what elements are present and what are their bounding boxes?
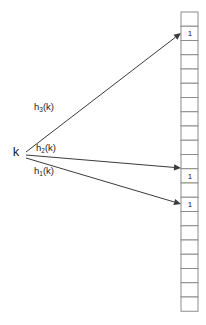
diagram-canvas: 111 k h3(k)h2(k)h1(k) (0, 0, 206, 325)
bit-array-cell[interactable] (181, 69, 198, 83)
arrow-line-h3 (26, 37, 175, 152)
bit-array-cell-value: 1 (188, 29, 193, 38)
bit-array-cell[interactable] (181, 183, 198, 197)
bit-array-cell[interactable] (181, 269, 198, 283)
bit-array-cell[interactable] (181, 297, 198, 311)
bit-array-cell-value: 1 (188, 200, 193, 209)
bit-array-cell[interactable] (181, 12, 198, 26)
bit-array-cell[interactable] (181, 140, 198, 154)
bit-array: 111 (181, 12, 198, 311)
hash-label-h2: h2(k) (36, 142, 56, 154)
arrow-head-h1 (173, 199, 181, 205)
bit-array-cell-value: 1 (188, 172, 193, 181)
bit-array-cell[interactable] (181, 240, 198, 254)
arrow-head-h3 (173, 33, 181, 40)
bit-array-cell[interactable] (181, 98, 198, 112)
bit-array-cell[interactable] (181, 55, 198, 69)
bit-array-cell[interactable] (181, 112, 198, 126)
bit-array-cell[interactable] (181, 226, 198, 240)
bit-array-cell[interactable] (181, 212, 198, 226)
bloom-filter-diagram: 111 k h3(k)h2(k)h1(k) (0, 0, 206, 325)
bit-array-cell[interactable] (181, 283, 198, 297)
hash-function-labels: h3(k)h2(k)h1(k) (34, 101, 56, 177)
bit-array-cell[interactable] (181, 155, 198, 169)
bit-array-cell[interactable] (181, 254, 198, 268)
bit-array-cell[interactable] (181, 41, 198, 55)
arrow-head-h2 (174, 164, 181, 170)
bit-array-cell[interactable] (181, 83, 198, 97)
hash-arrows (26, 33, 181, 205)
bit-array-cell[interactable] (181, 126, 198, 140)
hash-label-h3: h3(k) (34, 101, 54, 113)
key-label: k (13, 144, 20, 159)
hash-label-h1: h1(k) (34, 165, 54, 177)
